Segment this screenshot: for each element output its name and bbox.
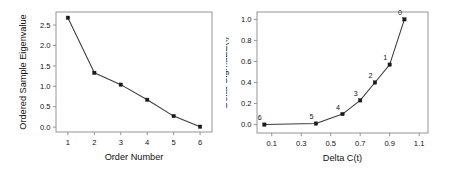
x-tick-label: 6 — [198, 138, 202, 147]
data-point — [263, 123, 266, 126]
x-tick-label: 0.5 — [325, 139, 336, 148]
y-tick-label: 0.8 — [241, 36, 252, 45]
data-point — [146, 98, 149, 101]
data-point — [388, 63, 391, 66]
x-tick-label: 2 — [92, 138, 96, 147]
data-point — [66, 16, 69, 19]
data-point — [373, 81, 376, 84]
x-axis-title: Delta C(t) — [323, 153, 362, 163]
y-tick-label: 0.6 — [241, 57, 252, 66]
data-point-label: 3 — [354, 89, 358, 98]
y-axis: 0.00.20.40.60.81.0 — [241, 15, 257, 129]
y-tick-label: 0.5 — [40, 102, 51, 111]
y-axis-title: Ordered Sample Eigenvalue — [18, 14, 28, 129]
data-point-label: 5 — [309, 112, 313, 121]
x-tick-label: 5 — [172, 138, 176, 147]
x-axis: 123456 — [66, 132, 202, 147]
data-point-label: 2 — [368, 71, 372, 80]
x-axis: 0.10.30.50.70.91.1 — [266, 133, 424, 148]
x-axis-title: Order Number — [105, 152, 164, 162]
data-point — [93, 71, 96, 74]
data-point — [314, 122, 317, 125]
y-tick-label: 2.5 — [40, 21, 51, 30]
chart-panel-left: 1234560.00.51.01.52.02.5Order NumberOrde… — [0, 0, 226, 171]
figure-canvas: 1234560.00.51.01.52.02.5Order NumberOrde… — [0, 0, 451, 171]
data-point — [403, 18, 406, 21]
data-point — [172, 114, 175, 117]
x-tick-label: 0.1 — [266, 139, 277, 148]
y-tick-label: 1.0 — [40, 82, 51, 91]
delta-sigma-plot-svg: 0.10.30.50.70.91.10.00.20.40.60.81.0Delt… — [226, 0, 451, 171]
y-tick-label: 2.0 — [40, 41, 51, 50]
x-tick-label: 0.3 — [296, 139, 307, 148]
x-tick-label: 3 — [119, 138, 123, 147]
data-point — [341, 112, 344, 115]
scree-plot-svg: 1234560.00.51.01.52.02.5Order NumberOrde… — [0, 0, 226, 171]
y-tick-label: 0.4 — [241, 78, 252, 87]
data-point — [119, 83, 122, 86]
plot-frame — [56, 12, 212, 132]
data-point-label: 4 — [336, 103, 340, 112]
data-markers — [66, 16, 202, 128]
data-markers: 6543210 — [258, 8, 406, 126]
y-axis: 0.00.51.01.52.02.5 — [40, 21, 56, 132]
y-tick-label: 0.2 — [241, 99, 252, 108]
x-tick-label: 0.7 — [355, 139, 366, 148]
chart-panel-right: 0.10.30.50.70.91.10.00.20.40.60.81.0Delt… — [226, 0, 451, 171]
y-axis-title: Delta-SigmaEE(t) — [226, 37, 229, 108]
data-point — [198, 125, 201, 128]
data-point — [358, 99, 361, 102]
x-tick-label: 1 — [66, 138, 70, 147]
y-tick-label: 1.0 — [241, 15, 252, 24]
data-series-line — [68, 18, 200, 127]
data-series-line — [264, 19, 404, 124]
x-tick-label: 0.9 — [384, 139, 395, 148]
data-point-label: 1 — [383, 53, 387, 62]
y-tick-label: 1.5 — [40, 62, 51, 71]
y-tick-label: 0.0 — [40, 123, 51, 132]
y-tick-label: 0.0 — [241, 120, 252, 129]
x-tick-label: 4 — [145, 138, 149, 147]
data-point-label: 0 — [398, 8, 402, 17]
data-point-label: 6 — [258, 113, 262, 122]
x-tick-label: 1.1 — [414, 139, 425, 148]
